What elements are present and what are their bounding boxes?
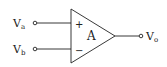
- amplifier-gain-label: A: [86, 29, 96, 43]
- op-amp: + − A: [71, 9, 115, 63]
- input-va: Va: [12, 17, 71, 31]
- op-amp-diagram: Va Vb + − A Vo: [0, 0, 167, 67]
- input-vb-label: Vb: [12, 43, 26, 57]
- output-vo: Vo: [115, 30, 158, 44]
- input-va-label: Va: [12, 17, 25, 31]
- noninverting-sign: +: [75, 19, 83, 30]
- inverting-sign: −: [75, 45, 83, 56]
- input-vb-terminal-icon: [33, 47, 37, 51]
- output-vo-label: Vo: [145, 30, 158, 44]
- input-va-terminal-icon: [33, 21, 37, 25]
- output-terminal-icon: [139, 34, 143, 38]
- input-vb: Vb: [12, 43, 71, 57]
